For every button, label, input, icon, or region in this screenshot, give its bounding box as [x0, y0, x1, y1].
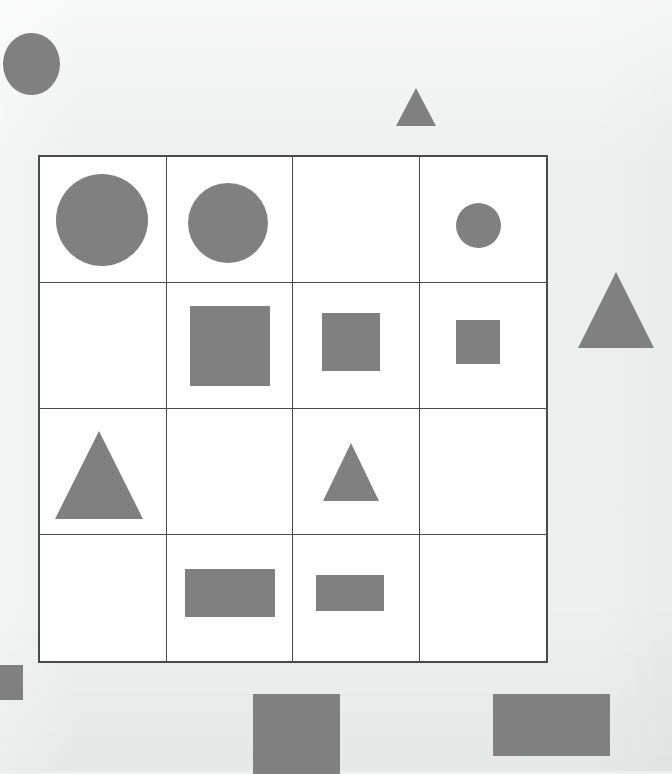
matrix-cell-r3-c1[interactable] — [167, 535, 294, 661]
circle-shape — [56, 174, 148, 266]
distractor-rect-bottom-mid[interactable] — [253, 694, 340, 774]
rectangle-shape — [185, 569, 275, 617]
distractor-rect-bottom-right[interactable] — [493, 694, 610, 756]
matrix-cell-r0-c1[interactable] — [167, 157, 294, 283]
matrix-cell-r2-c0[interactable] — [40, 409, 167, 535]
shape-matrix — [38, 155, 548, 663]
circle-shape — [456, 203, 501, 248]
distractor-triangle-right[interactable] — [578, 272, 654, 348]
triangle-shape — [323, 443, 379, 501]
matrix-cell-r1-c1[interactable] — [167, 283, 294, 409]
distractor-triangle-top[interactable] — [396, 88, 436, 126]
matrix-cell-r3-c2[interactable] — [293, 535, 420, 661]
triangle-shape — [55, 431, 143, 519]
square-shape — [456, 320, 500, 364]
matrix-cell-r1-c0[interactable] — [40, 283, 167, 409]
matrix-cell-r2-c1[interactable] — [167, 409, 294, 535]
matrix-cell-r0-c3[interactable] — [420, 157, 547, 283]
square-shape — [322, 313, 380, 371]
square-shape — [190, 306, 270, 386]
matrix-cell-r1-c3[interactable] — [420, 283, 547, 409]
matrix-cell-r2-c3[interactable] — [420, 409, 547, 535]
matrix-cell-r3-c0[interactable] — [40, 535, 167, 661]
matrix-cell-r0-c0[interactable] — [40, 157, 167, 283]
matrix-cell-r3-c3[interactable] — [420, 535, 547, 661]
distractor-rect-bottom-left[interactable] — [0, 665, 23, 700]
distractor-circle-top-left[interactable] — [3, 33, 60, 95]
circle-shape — [188, 183, 268, 263]
matrix-cell-r0-c2[interactable] — [293, 157, 420, 283]
matrix-cell-r2-c2[interactable] — [293, 409, 420, 535]
rectangle-shape — [316, 575, 384, 611]
matrix-cell-r1-c2[interactable] — [293, 283, 420, 409]
